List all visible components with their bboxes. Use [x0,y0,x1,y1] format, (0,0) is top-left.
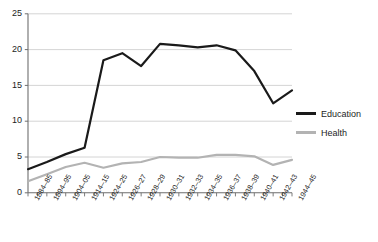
line-swatch-health-icon [296,131,316,134]
legend-label-health: Health [321,128,347,138]
legend-item-health: Health [296,123,378,142]
line-swatch-education-icon [296,112,316,115]
legend-label-education: Education [321,109,361,119]
chart-legend: Education Health [296,104,378,142]
legend-item-education: Education [296,104,378,123]
data-series-lines [28,44,292,181]
series-line-education [28,44,292,169]
gridlines [28,14,292,157]
chart-container: 25 20 15 10 5 0 1884–851894–951904–05191… [0,0,378,242]
